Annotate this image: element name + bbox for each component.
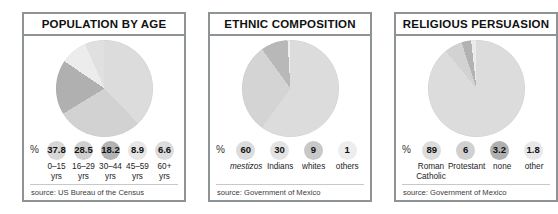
- legend-label: other: [518, 162, 550, 172]
- legend: % 37.8 28.5 18.2 8.9 6.6 0–15yrs 16–29yr…: [30, 140, 178, 181]
- legend-swatch: 28.5: [74, 141, 93, 160]
- panel-body: % 60 30 9 1 mestizos Indians whites othe…: [210, 36, 370, 200]
- legend-labels-row: RomanCatholic Protestant none other: [402, 162, 550, 181]
- legend-item[interactable]: 89: [415, 140, 449, 160]
- legend-swatch: 9: [304, 141, 323, 160]
- legend: % 60 30 9 1 mestizos Indians whites othe…: [216, 140, 364, 172]
- percent-sign: %: [30, 140, 43, 160]
- legend-label-line2: yrs: [132, 172, 143, 181]
- legend-label: Protestant: [447, 162, 486, 172]
- legend-swatch: 60: [236, 141, 255, 160]
- legend-swatch: 6.6: [155, 141, 174, 160]
- legend-item[interactable]: 6.6: [151, 140, 178, 160]
- pie-chart-ethnic-composition: [242, 40, 339, 137]
- legend-item[interactable]: 9: [297, 140, 331, 160]
- legend-item[interactable]: 1.8: [516, 140, 550, 160]
- legend-label-line1: 45–59: [126, 162, 149, 171]
- legend-label: RomanCatholic: [415, 162, 447, 181]
- source-note: source: Government of Mexico: [402, 184, 550, 200]
- legend-label-line2: yrs: [105, 172, 116, 181]
- legend-label: others: [330, 162, 364, 172]
- infographic-board: POPULATION BY AGE % 37.8 28.5 18.2 8.9 6…: [0, 0, 558, 214]
- pie-chart-religious-persuasion: [428, 40, 525, 137]
- legend-label: 45–59yrs: [124, 162, 151, 181]
- percent-sign: %: [216, 140, 229, 160]
- legend-label: none: [486, 162, 518, 172]
- legend-label-line1: 0–15: [47, 162, 65, 171]
- legend-swatch: 8.9: [128, 141, 147, 160]
- legend-label-line1: 30–44: [99, 162, 122, 171]
- legend-item[interactable]: 60: [229, 140, 263, 160]
- source-note: source: Government of Mexico: [216, 184, 364, 200]
- legend-values-row: % 37.8 28.5 18.2 8.9 6.6: [30, 140, 178, 160]
- legend-item[interactable]: 1: [330, 140, 364, 160]
- legend-labels-row: mestizos Indians whites others: [216, 162, 364, 172]
- legend-values-row: % 89 6 3.2 1.8: [402, 140, 550, 160]
- panel-title: RELIGIOUS PERSUASION: [396, 14, 556, 36]
- legend-label: 30–44yrs: [97, 162, 124, 181]
- legend-label-line1: 60+: [158, 162, 172, 171]
- panel-ethnic-composition: ETHNIC COMPOSITION % 60 30 9 1 mestizos …: [208, 12, 372, 202]
- legend-swatch: 6: [456, 141, 475, 160]
- legend-swatch: 1: [338, 141, 357, 160]
- legend-item[interactable]: 37.8: [43, 140, 70, 160]
- legend-label-line2: yrs: [78, 172, 89, 181]
- panel-population-by-age: POPULATION BY AGE % 37.8 28.5 18.2 8.9 6…: [22, 12, 186, 202]
- legend-swatch: 37.8: [47, 141, 66, 160]
- pie-chart-wrapper: [216, 36, 364, 138]
- percent-sign: %: [402, 140, 415, 160]
- legend-item[interactable]: 28.5: [70, 140, 97, 160]
- panel-title: ETHNIC COMPOSITION: [210, 14, 370, 36]
- legend-item[interactable]: 30: [263, 140, 297, 160]
- legend-swatch: 30: [270, 141, 289, 160]
- legend: % 89 6 3.2 1.8 RomanCatholic Protestant …: [402, 140, 550, 181]
- legend-label-line2: yrs: [51, 172, 62, 181]
- legend-label: whites: [297, 162, 331, 172]
- legend-swatch: 18.2: [101, 141, 120, 160]
- legend-label-line1: Roman: [418, 162, 444, 171]
- panel-body: % 89 6 3.2 1.8 RomanCatholic Protestant …: [396, 36, 556, 200]
- legend-item[interactable]: 3.2: [483, 140, 517, 160]
- pie-chart-population-by-age: [56, 40, 153, 137]
- legend-values-row: % 60 30 9 1: [216, 140, 364, 160]
- legend-label-line1: 16–29: [72, 162, 95, 171]
- legend-label: 0–15yrs: [43, 162, 70, 181]
- legend-item[interactable]: 6: [449, 140, 483, 160]
- legend-label: 60+yrs: [151, 162, 178, 181]
- legend-swatch: 3.2: [490, 141, 509, 160]
- panel-religious-persuasion: RELIGIOUS PERSUASION % 89 6 3.2 1.8 Roma…: [394, 12, 558, 202]
- legend-label-line2: Catholic: [416, 172, 446, 181]
- legend-label: 16–29yrs: [70, 162, 97, 181]
- source-note: source: US Bureau of the Census: [30, 184, 178, 200]
- legend-label: Indians: [263, 162, 297, 172]
- legend-labels-row: 0–15yrs 16–29yrs 30–44yrs 45–59yrs 60+yr…: [30, 162, 178, 181]
- pie-chart-wrapper: [30, 36, 178, 138]
- legend-item[interactable]: 8.9: [124, 140, 151, 160]
- legend-item[interactable]: 18.2: [97, 140, 124, 160]
- legend-swatch: 1.8: [524, 141, 543, 160]
- panel-body: % 37.8 28.5 18.2 8.9 6.6 0–15yrs 16–29yr…: [24, 36, 184, 200]
- legend-label: mestizos: [229, 162, 263, 172]
- legend-label-line2: yrs: [159, 172, 170, 181]
- pie-chart-wrapper: [402, 36, 550, 138]
- panel-title: POPULATION BY AGE: [24, 14, 184, 36]
- legend-swatch: 89: [422, 141, 441, 160]
